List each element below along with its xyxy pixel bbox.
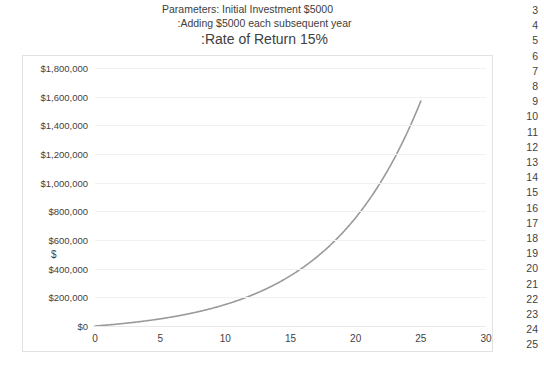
y-gridline xyxy=(95,183,486,184)
y-gridline xyxy=(95,154,486,155)
spreadsheet-row-gutter[interactable]: 345678910111213141516171819202122232425 xyxy=(500,0,544,388)
chart-container[interactable]: $ $1,800,000$1,600,000$1,400,000$1,200,0… xyxy=(22,55,493,352)
chart-title: Parameters: Initial Investment $5000 :Ad… xyxy=(0,2,495,48)
spreadsheet-row-number[interactable]: 6 xyxy=(500,49,538,64)
y-axis-tick-label: $400,000 xyxy=(48,263,88,274)
y-axis-title: $ xyxy=(51,249,57,260)
plot-area: $1,800,000$1,600,000$1,400,000$1,200,000… xyxy=(95,68,486,326)
y-gridline xyxy=(95,68,486,69)
x-axis-tick-label: 5 xyxy=(157,333,163,344)
spreadsheet-row-number[interactable]: 20 xyxy=(500,261,538,276)
spreadsheet-row-number[interactable]: 3 xyxy=(500,3,538,18)
spreadsheet-row-number[interactable]: 4 xyxy=(500,18,538,33)
y-axis-tick-label: $800,000 xyxy=(48,206,88,217)
spreadsheet-row-number[interactable]: 14 xyxy=(500,170,538,185)
series-line-investment-value xyxy=(95,68,486,326)
spreadsheet-row-number[interactable]: 19 xyxy=(500,246,538,261)
y-axis-tick-label: $600,000 xyxy=(48,235,88,246)
spreadsheet-row-number[interactable]: 25 xyxy=(500,337,538,352)
spreadsheet-row-number[interactable]: 16 xyxy=(500,201,538,216)
y-axis-tick-label: $1,200,000 xyxy=(40,149,88,160)
spreadsheet-row-number[interactable]: 13 xyxy=(500,155,538,170)
spreadsheet-row-number[interactable]: 23 xyxy=(500,307,538,322)
y-gridline xyxy=(95,97,486,98)
spreadsheet-row-number[interactable]: 11 xyxy=(500,125,538,140)
x-axis-tick-label: 0 xyxy=(92,333,98,344)
y-gridline xyxy=(95,269,486,270)
spreadsheet-row-number[interactable]: 21 xyxy=(500,277,538,292)
y-axis-tick-label: $1,800,000 xyxy=(40,63,88,74)
x-axis-tick-label: 20 xyxy=(350,333,361,344)
y-axis-tick-label: $200,000 xyxy=(48,292,88,303)
spreadsheet-row-number[interactable]: 22 xyxy=(500,292,538,307)
spreadsheet-row-number[interactable]: 12 xyxy=(500,140,538,155)
spreadsheet-row-number[interactable]: 8 xyxy=(500,79,538,94)
spreadsheet-row-number[interactable]: 15 xyxy=(500,185,538,200)
y-axis-tick-label: $1,000,000 xyxy=(40,177,88,188)
x-axis-tick-label: 25 xyxy=(415,333,426,344)
chart-title-line-2: :Adding $5000 each subsequent year xyxy=(0,16,495,30)
spreadsheet-row-number[interactable]: 18 xyxy=(500,231,538,246)
y-axis-tick-label: $0 xyxy=(77,321,88,332)
x-axis-tick-label: 30 xyxy=(480,333,491,344)
chart-title-line-1: Parameters: Initial Investment $5000 xyxy=(0,2,495,16)
chart-title-line-3: :Rate of Return 15% xyxy=(0,30,495,48)
spreadsheet-row-number[interactable]: 24 xyxy=(500,322,538,337)
x-axis-tick-label: 15 xyxy=(285,333,296,344)
y-gridline xyxy=(95,297,486,298)
spreadsheet-row-number[interactable]: 10 xyxy=(500,109,538,124)
y-axis-tick-label: $1,400,000 xyxy=(40,120,88,131)
spreadsheet-row-number[interactable]: 5 xyxy=(500,33,538,48)
y-gridline xyxy=(95,240,486,241)
spreadsheet-row-number[interactable]: 7 xyxy=(500,64,538,79)
y-gridline xyxy=(95,125,486,126)
y-axis-tick-label: $1,600,000 xyxy=(40,91,88,102)
y-gridline xyxy=(95,211,486,212)
spreadsheet-row-number[interactable]: 9 xyxy=(500,94,538,109)
x-axis-tick-label: 10 xyxy=(220,333,231,344)
y-gridline xyxy=(95,326,486,327)
spreadsheet-row-number[interactable]: 17 xyxy=(500,216,538,231)
